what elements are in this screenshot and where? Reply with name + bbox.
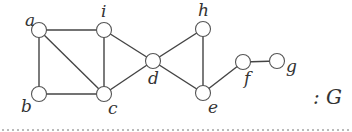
edge-a-c xyxy=(39,30,104,94)
node-label-e: e xyxy=(208,97,218,117)
edge-c-d xyxy=(104,61,153,94)
graph-caption: : G xyxy=(313,85,342,109)
node-label-d: d xyxy=(148,68,159,88)
nodes xyxy=(32,22,285,102)
edge-d-h xyxy=(153,29,203,61)
graph-diagram: aibcdhefg : G xyxy=(0,0,352,132)
node-label-b: b xyxy=(21,96,32,116)
node-label-a: a xyxy=(25,10,35,30)
node-label-i: i xyxy=(101,1,106,21)
node-d xyxy=(146,54,161,69)
node-label-f: f xyxy=(242,68,253,88)
node-b xyxy=(32,87,47,102)
node-label-c: c xyxy=(108,98,118,118)
edge-i-d xyxy=(104,30,153,61)
edge-d-e xyxy=(153,61,203,93)
node-g xyxy=(270,54,285,69)
node-label-g: g xyxy=(286,56,297,76)
node-i xyxy=(97,23,112,38)
node-h xyxy=(196,22,211,37)
node-label-h: h xyxy=(198,0,209,20)
